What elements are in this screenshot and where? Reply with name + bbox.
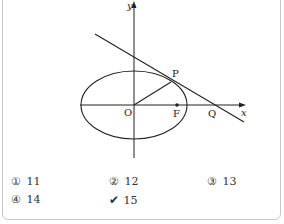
choice-2-value: 12 bbox=[125, 175, 139, 188]
origin-label: O bbox=[124, 107, 132, 118]
checkmark-icon: ✔ bbox=[109, 193, 119, 207]
point-p-label: P bbox=[172, 68, 179, 79]
choice-4[interactable]: ④ 14 bbox=[11, 193, 41, 206]
choice-5-value: 15 bbox=[124, 194, 138, 207]
point-q-label: Q bbox=[208, 108, 216, 119]
choice-3-value: 13 bbox=[223, 175, 237, 188]
choice-1-mark: ① bbox=[11, 175, 21, 188]
focus-label: F bbox=[173, 108, 180, 119]
choice-2-mark: ② bbox=[109, 175, 119, 188]
segment-op bbox=[134, 82, 171, 105]
x-axis-label: x bbox=[241, 107, 247, 118]
choice-4-mark: ④ bbox=[11, 193, 21, 206]
y-axis-label: y bbox=[126, 0, 133, 11]
choice-2[interactable]: ② 12 bbox=[109, 175, 139, 188]
tangent-line bbox=[95, 34, 244, 122]
choice-5-selected[interactable]: ✔ 15 bbox=[109, 193, 138, 207]
focus-point bbox=[175, 103, 179, 107]
choice-4-value: 14 bbox=[27, 193, 41, 206]
choice-1-value: 11 bbox=[27, 175, 41, 188]
choice-3-mark: ③ bbox=[207, 175, 217, 188]
ellipse-tangent-figure: y x O F P Q bbox=[0, 0, 284, 224]
choice-3[interactable]: ③ 13 bbox=[207, 175, 237, 188]
choice-1[interactable]: ① 11 bbox=[11, 175, 41, 188]
